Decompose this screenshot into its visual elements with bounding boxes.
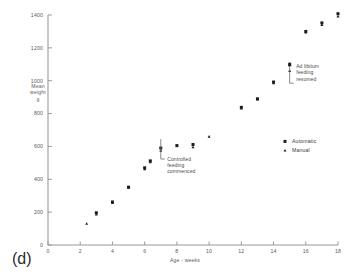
controlled-feeding-label: Controlled: [167, 156, 191, 162]
data-point-automatic: [337, 12, 340, 15]
y-axis-title-line: g: [36, 96, 39, 102]
x-tick-label: 0: [46, 248, 49, 254]
x-tick-label: 2: [79, 248, 82, 254]
x-tick-label: 12: [238, 248, 244, 254]
y-tick-label: 200: [34, 209, 43, 215]
x-tick-label: 8: [175, 248, 178, 254]
y-tick-label: 1400: [31, 12, 43, 18]
data-point-manual: [337, 15, 340, 18]
x-tick-label: 4: [111, 248, 114, 254]
data-point-automatic: [192, 143, 195, 146]
x-tick-label: 10: [206, 248, 212, 254]
y-tick-label: 1200: [31, 45, 43, 51]
y-tick-label: 0: [40, 242, 43, 248]
legend: AutomaticManual: [284, 138, 317, 153]
ad-libitum-label: feeding: [296, 69, 313, 75]
panel-label: (d): [12, 250, 32, 268]
x-tick-label: 6: [143, 248, 146, 254]
legend-marker-automatic: [284, 140, 287, 143]
y-tick-label: 400: [34, 176, 43, 182]
controlled-feeding-label: feeding: [167, 162, 184, 168]
y-tick-label: 800: [34, 110, 43, 116]
x-tick-label: 18: [335, 248, 341, 254]
legend-label: Automatic: [292, 138, 317, 144]
figure-panel: 0200400600800100012001400024681012141618…: [0, 0, 354, 274]
x-tick-label: 14: [271, 248, 277, 254]
y-tick-label: 600: [34, 143, 43, 149]
data-points: [85, 12, 339, 225]
data-point-automatic: [175, 144, 178, 147]
legend-label: Manual: [292, 147, 310, 153]
legend-marker-manual: [284, 149, 287, 152]
x-tick-label: 16: [303, 248, 309, 254]
ad-libitum-label: resumed: [296, 76, 316, 82]
x-axis-title: Age - weeks: [170, 257, 200, 263]
scatter-plot: 0200400600800100012001400024681012141618…: [0, 0, 354, 274]
ad-libitum-label: Ad libitum: [296, 63, 319, 69]
axis-frame: [48, 15, 338, 245]
data-point-manual: [192, 146, 195, 149]
data-point-manual: [85, 222, 88, 225]
annotations: ControlledfeedingcommencedAd libitumfeed…: [161, 62, 319, 174]
y-axis-title-line: Mean: [31, 83, 45, 89]
y-axis-title-line: weight: [30, 89, 46, 95]
controlled-feeding-label: commenced: [167, 168, 195, 174]
data-point-manual: [208, 135, 211, 138]
